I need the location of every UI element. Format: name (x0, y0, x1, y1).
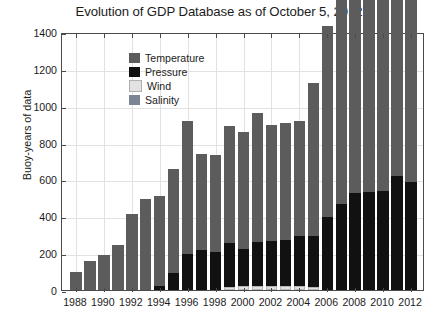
bar-segment-pressure (266, 241, 277, 286)
legend-item: Temperature (129, 51, 204, 65)
bar-group (349, 32, 360, 290)
x-tick-mark-top (383, 34, 384, 38)
y-axis-title: Buoy-years of data (21, 55, 33, 215)
x-tick-mark (271, 288, 272, 292)
legend-label: Pressure (145, 67, 187, 78)
bar-segment-temperature (294, 121, 305, 235)
bar-segment-temperature (322, 26, 333, 217)
legend-swatch-icon (129, 67, 140, 77)
y-tick-label: 200 (11, 248, 57, 260)
x-tick-mark (104, 288, 105, 292)
y-tick-mark (62, 71, 66, 72)
bar-group (252, 32, 263, 290)
y-tick-mark (62, 145, 66, 146)
bar-group (391, 32, 402, 290)
bar-segment-temperature (210, 155, 221, 252)
bar-group (238, 32, 249, 290)
legend-item: Salinity (129, 93, 204, 107)
bar-segment-wind (252, 286, 263, 290)
bar-group (377, 32, 388, 290)
bar-segment-temperature (224, 126, 235, 243)
x-tick-mark-top (216, 34, 217, 38)
x-tick-label: 2012 (385, 296, 435, 308)
bar-group (266, 32, 277, 290)
legend-item: Pressure (129, 65, 204, 79)
bar-group (98, 32, 109, 290)
bar-segment-pressure (280, 240, 291, 286)
bar-segment-pressure (322, 217, 333, 290)
bar-segment-wind (308, 287, 319, 290)
y-tick-mark (62, 181, 66, 182)
x-tick-mark-top (160, 34, 161, 38)
bar-segment-pressure (168, 273, 179, 291)
legend-swatch-icon (129, 53, 140, 63)
x-tick-mark (299, 288, 300, 292)
x-tick-mark (355, 288, 356, 292)
bar-group (280, 32, 291, 290)
bar-segment-wind (280, 286, 291, 290)
bar-segment-temperature (112, 245, 123, 290)
bar-group (84, 32, 95, 290)
bar-segment-temperature (266, 125, 277, 241)
x-tick-mark-top (132, 34, 133, 38)
legend-label: Salinity (145, 95, 179, 106)
bar-segment-pressure (377, 191, 388, 291)
x-tick-mark (160, 288, 161, 292)
x-tick-mark (76, 288, 77, 292)
bar-segment-temperature (377, 0, 388, 191)
y-tick-label: 800 (11, 138, 57, 150)
x-tick-mark-top (355, 34, 356, 38)
bar-segment-temperature (154, 196, 165, 286)
x-tick-mark-top (299, 34, 300, 38)
bar-segment-pressure (391, 176, 402, 290)
bar-segment-temperature (405, 0, 416, 182)
bar-segment-temperature (336, 0, 347, 204)
x-tick-mark-top (76, 34, 77, 38)
legend-label: Temperature (145, 53, 204, 64)
bar-segment-pressure (252, 242, 263, 286)
bar-segment-pressure (182, 254, 193, 290)
x-tick-mark-top (188, 34, 189, 38)
x-tick-mark-top (104, 34, 105, 38)
bar-group (405, 32, 416, 290)
bar-group (308, 32, 319, 290)
x-tick-mark (327, 288, 328, 292)
y-tick-label: 1400 (11, 27, 57, 39)
bar-segment-temperature (280, 123, 291, 240)
bar-group (363, 32, 374, 290)
x-tick-mark-top (244, 34, 245, 38)
y-tick-mark (62, 34, 66, 35)
y-tick-label: 1000 (11, 101, 57, 113)
bar-segment-pressure (238, 249, 249, 286)
bar-segment-temperature (363, 0, 374, 192)
x-tick-mark-top (327, 34, 328, 38)
bar-segment-pressure (363, 192, 374, 290)
y-tick-label: 1200 (11, 64, 57, 76)
bar-segment-temperature (168, 169, 179, 272)
bar-segment-wind (224, 287, 235, 290)
legend-item: Wind (129, 79, 204, 93)
x-tick-mark (411, 288, 412, 292)
bar-segment-temperature (98, 255, 109, 290)
y-tick-mark (62, 218, 66, 219)
chart-figure: Evolution of GDP Database as of October … (0, 0, 438, 326)
bar-segment-temperature (140, 199, 151, 290)
bar-group (224, 32, 235, 290)
bar-segment-pressure (196, 250, 207, 290)
x-tick-mark (383, 288, 384, 292)
y-tick-label: 400 (11, 211, 57, 223)
legend-swatch-icon (129, 80, 142, 92)
legend-swatch-icon (129, 95, 140, 105)
bar-segment-temperature (238, 132, 249, 250)
bar-segment-pressure (224, 243, 235, 286)
plot-area (61, 33, 424, 291)
bar-segment-temperature (196, 154, 207, 251)
x-tick-mark (188, 288, 189, 292)
x-tick-mark-top (411, 34, 412, 38)
bar-segment-temperature (308, 83, 319, 236)
bar-segment-pressure (308, 236, 319, 287)
bar-segment-temperature (349, 0, 360, 193)
bar-segment-pressure (210, 252, 221, 290)
bar-group (294, 32, 305, 290)
y-tick-mark (62, 255, 66, 256)
